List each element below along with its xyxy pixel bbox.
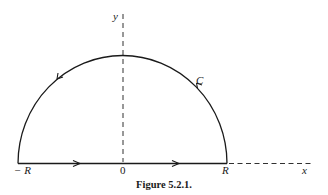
- x-axis-label: x: [302, 165, 307, 176]
- contour-label: C: [196, 75, 203, 86]
- neg-r-label: − R: [14, 165, 31, 176]
- semicircle-arc: [18, 56, 227, 164]
- origin-label: 0: [120, 165, 126, 176]
- contour-diagram: [0, 0, 328, 195]
- y-axis-label: y: [113, 11, 118, 22]
- pos-r-label: R: [222, 165, 229, 176]
- figure-caption: Figure 5.2.1.: [0, 179, 328, 190]
